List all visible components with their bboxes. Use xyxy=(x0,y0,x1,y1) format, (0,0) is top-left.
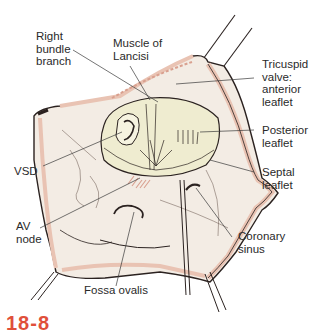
label-av-node: AV node xyxy=(16,220,42,245)
label-coronary-sinus: Coronary sinus xyxy=(238,230,285,255)
label-tricuspid-anterior-leaflet: Tricuspid valve: anterior leaflet xyxy=(262,58,308,108)
label-fossa-ovalis: Fossa ovalis xyxy=(84,284,148,297)
label-muscle-of-lancisi: Muscle of Lancisi xyxy=(113,37,162,62)
label-posterior-leaflet: Posterior leaflet xyxy=(262,124,308,149)
figure-number: 18-8 xyxy=(6,312,50,334)
label-septal-leaflet: Septal leaflet xyxy=(262,166,295,191)
label-right-bundle-branch: Right bundle branch xyxy=(36,30,71,68)
label-vsd: VSD xyxy=(14,165,38,178)
